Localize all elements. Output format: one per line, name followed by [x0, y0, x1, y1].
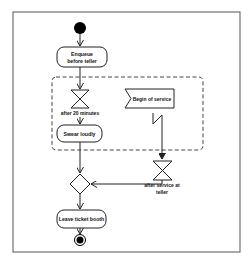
- accept-event-begin-of-service[interactable]: Begin of service: [125, 89, 174, 108]
- initial-node[interactable]: [74, 22, 86, 34]
- action-swear-loudly[interactable]: Swear loudly: [57, 125, 102, 142]
- action-leave-ticket-booth[interactable]: Leave ticket booth: [57, 210, 106, 228]
- time-event-label-line2: teller: [156, 189, 168, 195]
- activity-diagram: Enqueue before teller after 20 minutes S…: [0, 0, 251, 263]
- action-label: Leave ticket booth: [59, 216, 105, 222]
- final-node[interactable]: [75, 235, 86, 246]
- accept-event-label: Begin of service: [133, 96, 172, 102]
- action-label-line1: Enqueue: [71, 51, 93, 57]
- action-enqueue-before-teller[interactable]: Enqueue before teller: [57, 47, 107, 67]
- time-event-label: after 20 minutes: [61, 110, 100, 116]
- action-label: Swear loudly: [64, 131, 96, 137]
- action-label-line2: before teller: [67, 58, 97, 64]
- diagram-frame: [13, 12, 240, 252]
